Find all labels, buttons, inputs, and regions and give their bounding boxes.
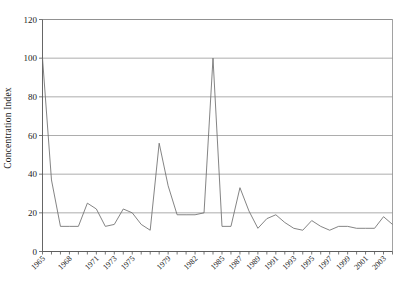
x-tick-label-1999: 1999: [334, 254, 352, 272]
data-series: [43, 58, 393, 230]
x-tick-label-1975: 1975: [119, 254, 137, 272]
x-tick-label-1985: 1985: [209, 254, 227, 272]
x-tick-label-1971: 1971: [83, 254, 101, 272]
x-tick-label-1965: 1965: [29, 254, 47, 272]
x-tick-label-1995: 1995: [298, 254, 316, 272]
x-tick-label-1973: 1973: [101, 254, 119, 272]
y-tick-label-80: 80: [28, 92, 38, 102]
chart-container: Concentration Index 020406080100120 1965…: [0, 0, 404, 293]
x-tick-label-1993: 1993: [281, 254, 299, 272]
y-tick-label-100: 100: [24, 53, 38, 63]
x-tick-label-2001: 2001: [352, 254, 370, 272]
x-tick-label-1987: 1987: [227, 254, 245, 272]
x-tick-label-1979: 1979: [155, 254, 173, 272]
x-tick-label-2003: 2003: [370, 254, 388, 272]
y-tick-label-120: 120: [24, 15, 38, 25]
y-tick-label-20: 20: [28, 208, 38, 218]
x-tick-label-1997: 1997: [316, 254, 334, 272]
line-chart: 020406080100120 196519681971197319751979…: [0, 0, 404, 293]
x-axis-ticks: 1965196819711973197519791982198519871989…: [29, 252, 392, 272]
x-tick-label-1991: 1991: [263, 254, 281, 272]
y-axis-ticks: 020406080100120: [24, 15, 43, 257]
data-line-series-0: [43, 58, 393, 230]
x-tick-label-1968: 1968: [56, 254, 74, 272]
y-tick-label-60: 60: [28, 131, 38, 141]
x-tick-label-1982: 1982: [182, 254, 200, 272]
y-tick-label-40: 40: [28, 169, 38, 179]
y-tick-label-0: 0: [33, 247, 38, 257]
x-tick-label-1989: 1989: [245, 254, 263, 272]
